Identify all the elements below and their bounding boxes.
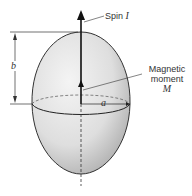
spin-label: Spin I [105,11,129,21]
moment-label: Magnetic moment M [144,64,190,94]
b-label: b [10,61,17,71]
moment-line1: Magnetic [144,64,190,74]
ellipsoid-diagram [0,0,192,196]
moment-symbol: M [144,84,190,94]
b-arrow-down [13,96,17,103]
b-arrow-up [13,33,17,40]
spin-arrowhead [77,10,85,20]
spin-text: Spin [105,11,123,21]
spin-symbol: I [126,10,129,21]
spin-leader [84,16,104,22]
a-label: a [101,98,106,108]
